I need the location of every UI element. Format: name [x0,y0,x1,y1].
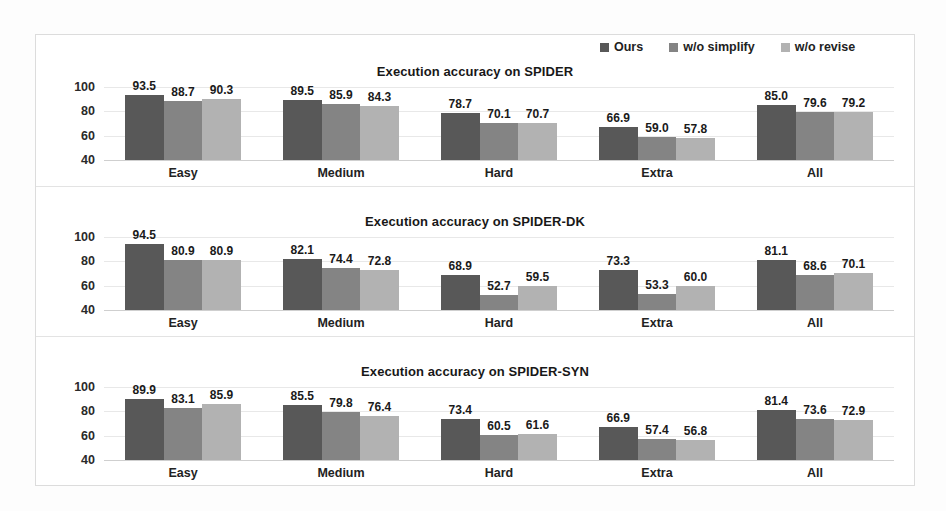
bar[interactable]: 59.5 [518,286,557,310]
bar[interactable]: 56.8 [676,440,715,460]
bar[interactable]: 72.8 [360,270,399,310]
bar-group: 66.959.057.8Extra [578,87,736,160]
bar[interactable]: 59.0 [638,137,677,160]
x-axis-category-label: Hard [420,166,578,180]
bar[interactable]: 52.7 [480,295,519,310]
bar[interactable]: 53.3 [638,294,677,310]
bar[interactable]: 80.9 [164,260,203,310]
bar-set: 81.473.672.9 [757,387,873,460]
bar[interactable]: 88.7 [164,101,203,160]
bar[interactable]: 70.1 [834,273,873,310]
bar[interactable]: 81.4 [757,410,796,460]
bar-group: 93.588.790.3Easy [104,87,262,160]
x-axis-category-label: Extra [578,166,736,180]
bar[interactable]: 73.4 [441,419,480,460]
y-axis-tick-label: 80 [46,104,104,118]
bar[interactable]: 85.5 [283,405,322,460]
bar[interactable]: 93.5 [125,95,164,160]
bar[interactable]: 90.3 [202,99,241,160]
bar-set: 82.174.472.8 [283,237,399,310]
bar[interactable]: 85.0 [757,105,796,160]
bar[interactable]: 79.8 [322,412,361,460]
x-axis-category-label: Medium [262,316,420,330]
bar-value-label: 70.1 [487,107,510,121]
bar-slot: 93.5 [125,87,164,160]
bar-value-label: 66.9 [607,111,630,125]
bar-value-label: 61.6 [526,418,549,432]
bar-slot: 94.5 [125,237,164,310]
bar-slot: 52.7 [480,237,519,310]
bar[interactable]: 61.6 [518,434,557,460]
bar[interactable]: 57.4 [638,439,677,460]
bar-value-label: 76.4 [368,400,391,414]
bar-set: 85.579.876.4 [283,387,399,460]
bar-set: 73.353.360.0 [599,237,715,310]
x-axis-category-label: Medium [262,466,420,480]
bar-slot: 85.9 [202,387,241,460]
bar[interactable]: 73.3 [599,270,638,311]
bar-slot: 84.3 [360,87,399,160]
bar-slot: 57.8 [676,87,715,160]
bar-value-label: 68.6 [803,259,826,273]
bar[interactable]: 73.6 [796,419,835,460]
bar[interactable]: 89.5 [283,100,322,160]
bar[interactable]: 82.1 [283,259,322,310]
legend-entry[interactable]: w/o simplify [669,40,755,54]
bar-slot: 66.9 [599,387,638,460]
bar-group: 73.460.561.6Hard [420,387,578,460]
bar-value-label: 89.5 [291,84,314,98]
bar[interactable]: 60.5 [480,435,519,460]
bar[interactable]: 76.4 [360,416,399,460]
bar[interactable]: 83.1 [164,408,203,460]
bar[interactable]: 74.4 [322,268,361,310]
chart-legend: Oursw/o simplifyw/o revise [600,38,855,56]
bar[interactable]: 78.7 [441,113,480,160]
bar[interactable]: 79.6 [796,112,835,160]
y-axis-tick-label: 40 [46,453,104,467]
bar-value-label: 59.5 [526,270,549,284]
bar[interactable]: 85.9 [322,104,361,160]
bar[interactable]: 60.0 [676,286,715,310]
bar-set: 89.983.185.9 [125,387,241,460]
bar-slot: 57.4 [638,387,677,460]
bar[interactable]: 68.6 [796,275,835,310]
bar-slot: 70.7 [518,87,557,160]
bar[interactable]: 94.5 [125,244,164,310]
bar-group: 73.353.360.0Extra [578,237,736,310]
bar[interactable]: 66.9 [599,427,638,460]
bar[interactable]: 70.1 [480,123,519,160]
bar-slot: 80.9 [164,237,203,310]
bar[interactable]: 81.1 [757,260,796,310]
legend-entry[interactable]: Ours [600,40,643,54]
bar[interactable]: 80.9 [202,260,241,310]
bar-value-label: 81.4 [765,394,788,408]
panel-title: Execution accuracy on SPIDER-SYN [36,364,914,379]
bar-group: 89.585.984.3Medium [262,87,420,160]
bar[interactable]: 79.2 [834,112,873,160]
bar-slot: 81.1 [757,237,796,310]
bar-set: 68.952.759.5 [441,237,557,310]
bar-slot: 79.2 [834,87,873,160]
bar-value-label: 72.9 [842,404,865,418]
bar-value-label: 85.9 [210,388,233,402]
bar-group: 81.473.672.9All [736,387,894,460]
bar-slot: 85.9 [322,87,361,160]
bar-value-label: 90.3 [210,83,233,97]
bar-slot: 72.9 [834,387,873,460]
panel-title: Execution accuracy on SPIDER-DK [36,214,914,229]
bar[interactable]: 70.7 [518,123,557,160]
bar[interactable]: 57.8 [676,138,715,160]
x-axis-category-label: Extra [578,466,736,480]
bar[interactable]: 84.3 [360,106,399,160]
bar[interactable]: 72.9 [834,420,873,460]
bar[interactable]: 68.9 [441,275,480,310]
bar[interactable]: 66.9 [599,127,638,160]
bar-value-label: 78.7 [449,97,472,111]
gridline [104,460,894,461]
bar[interactable]: 85.9 [202,404,241,460]
bar-value-label: 84.3 [368,90,391,104]
bar[interactable]: 89.9 [125,399,164,460]
legend-entry[interactable]: w/o revise [781,40,855,54]
bar-slot: 88.7 [164,87,203,160]
bar-slot: 73.4 [441,387,480,460]
